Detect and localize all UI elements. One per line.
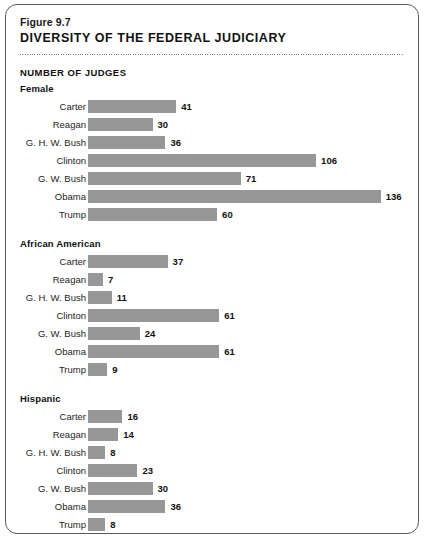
chart-rows: Carter37Reagan7G. H. W. Bush11Clinton61G… [20, 253, 404, 379]
bar-category-label: Carter [20, 98, 86, 115]
bar [88, 255, 168, 268]
bar-track: 136 [88, 190, 404, 203]
bar-track: 41 [88, 100, 404, 113]
bar-category-label: Obama [20, 188, 86, 205]
bar [88, 446, 105, 459]
bar [88, 309, 219, 322]
bar-value-label: 8 [110, 446, 115, 459]
bar-track: 9 [88, 363, 404, 376]
bar-row: Obama61 [20, 343, 404, 361]
bar-track: 61 [88, 345, 404, 358]
bar-row: Clinton61 [20, 307, 404, 325]
bar-category-label: Carter [20, 408, 86, 425]
bar [88, 208, 217, 221]
bar [88, 327, 140, 340]
bar [88, 273, 103, 286]
bar [88, 482, 153, 495]
bar-category-label: G. W. Bush [20, 325, 86, 342]
bar-track: 37 [88, 255, 404, 268]
bar-category-label: G. W. Bush [20, 170, 86, 187]
bar-value-label: 37 [173, 255, 184, 268]
units-label: NUMBER OF JUDGES [20, 67, 404, 79]
bar-value-label: 9 [112, 363, 117, 376]
bar-value-label: 136 [386, 190, 402, 203]
bar-value-label: 61 [224, 345, 235, 358]
bar-value-label: 71 [246, 172, 257, 185]
bar-track: 61 [88, 309, 404, 322]
chart-rows: Carter16Reagan14G. H. W. Bush8Clinton23G… [20, 408, 404, 534]
bar-row: Trump9 [20, 361, 404, 379]
bar-row: G. W. Bush30 [20, 480, 404, 498]
bar [88, 136, 165, 149]
chart-group: HispanicCarter16Reagan14G. H. W. Bush8Cl… [20, 393, 404, 534]
bar-value-label: 30 [158, 482, 169, 495]
bar-row: Reagan7 [20, 271, 404, 289]
bar-row: Trump60 [20, 206, 404, 224]
bar-value-label: 41 [181, 100, 192, 113]
figure-panel: Figure 9.7 DIVERSITY OF THE FEDERAL JUDI… [5, 4, 419, 534]
bar-value-label: 30 [158, 118, 169, 131]
bar-value-label: 14 [123, 428, 134, 441]
chart-group: FemaleCarter41Reagan30G. H. W. Bush36Cli… [20, 83, 404, 224]
bar-value-label: 60 [222, 208, 233, 221]
bar-row: Trump8 [20, 516, 404, 534]
bar-value-label: 36 [170, 136, 181, 149]
bar [88, 172, 241, 185]
bar [88, 363, 107, 376]
bar-value-label: 23 [142, 464, 153, 477]
bar-value-label: 16 [127, 410, 138, 423]
bar-row: Carter41 [20, 98, 404, 116]
bar-row: Clinton106 [20, 152, 404, 170]
bar-category-label: G. W. Bush [20, 480, 86, 497]
bar-category-label: Trump [20, 206, 86, 223]
bar-row: Reagan14 [20, 426, 404, 444]
bar-track: 36 [88, 500, 404, 513]
figure-number: Figure 9.7 [20, 16, 404, 29]
bar-row: G. H. W. Bush8 [20, 444, 404, 462]
bar-category-label: Obama [20, 498, 86, 515]
bar [88, 464, 137, 477]
bar-category-label: Clinton [20, 462, 86, 479]
bar-row: G. H. W. Bush36 [20, 134, 404, 152]
bar-category-label: G. H. W. Bush [20, 289, 86, 306]
bar-value-label: 7 [108, 273, 113, 286]
bar-row: G. W. Bush24 [20, 325, 404, 343]
bar-track: 106 [88, 154, 404, 167]
bar [88, 518, 105, 531]
bar-track: 8 [88, 518, 404, 531]
bar-row: G. H. W. Bush11 [20, 289, 404, 307]
bar-track: 60 [88, 208, 404, 221]
bar [88, 410, 122, 423]
bar-category-label: Carter [20, 253, 86, 270]
bar-value-label: 61 [224, 309, 235, 322]
bar-track: 30 [88, 482, 404, 495]
bar-track: 71 [88, 172, 404, 185]
bar-track: 24 [88, 327, 404, 340]
chart-group-title: Female [20, 83, 404, 95]
bar [88, 190, 381, 203]
bar-row: Reagan30 [20, 116, 404, 134]
bar-category-label: Reagan [20, 426, 86, 443]
bar-row: Obama136 [20, 188, 404, 206]
bar-row: Carter16 [20, 408, 404, 426]
bar-track: 30 [88, 118, 404, 131]
title-divider [20, 54, 404, 55]
bar-row: Clinton23 [20, 462, 404, 480]
bar [88, 118, 153, 131]
bar-category-label: Trump [20, 516, 86, 533]
figure-title: DIVERSITY OF THE FEDERAL JUDICIARY [20, 30, 404, 46]
bar-category-label: Obama [20, 343, 86, 360]
bar [88, 154, 316, 167]
bar-value-label: 36 [170, 500, 181, 513]
bar-track: 16 [88, 410, 404, 423]
bar-category-label: Reagan [20, 116, 86, 133]
bar [88, 500, 165, 513]
bar-category-label: G. H. W. Bush [20, 444, 86, 461]
bar [88, 291, 112, 304]
bar-track: 11 [88, 291, 404, 304]
bar-category-label: Reagan [20, 271, 86, 288]
bar-value-label: 8 [110, 518, 115, 531]
bar-row: Carter37 [20, 253, 404, 271]
bar [88, 428, 118, 441]
bar-track: 14 [88, 428, 404, 441]
